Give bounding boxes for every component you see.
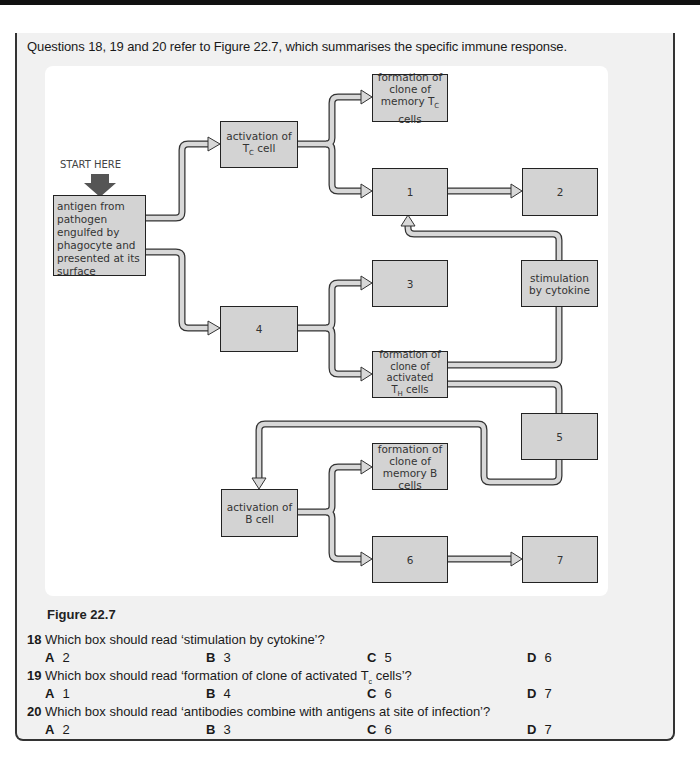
option-value: 1 <box>62 686 69 701</box>
option-letter: C <box>367 686 376 701</box>
option-value: 5 <box>384 650 391 665</box>
question-number: 20 <box>27 704 41 719</box>
th-line2: clone of activated <box>373 361 447 384</box>
option-letter: A <box>45 722 54 737</box>
box-activation-b: activation of B cell <box>221 489 298 537</box>
activation-tc-line1: activation of <box>226 130 291 142</box>
box-antigen: antigen from pathogen engulfed by phagoc… <box>53 195 146 276</box>
q18-option-b[interactable]: B3 <box>206 650 231 665</box>
q20-option-c[interactable]: C6 <box>367 722 392 737</box>
option-value: 2 <box>62 722 69 737</box>
q20-option-a[interactable]: A2 <box>45 722 70 737</box>
option-letter: B <box>206 686 215 701</box>
option-value: 6 <box>544 650 551 665</box>
q20-option-d[interactable]: D7 <box>527 722 552 737</box>
question-18: 18 Which box should read ‘stimulation by… <box>27 632 325 647</box>
memory-tc-line2: clone of <box>373 83 447 95</box>
box-5: 5 <box>521 413 598 460</box>
box-7: 7 <box>522 536 598 583</box>
memory-tc-rest: cells <box>398 113 422 125</box>
box-cytokine: stimulation by cytokine <box>521 260 598 307</box>
option-value: 3 <box>223 650 230 665</box>
option-value: 3 <box>223 722 230 737</box>
option-value: 2 <box>62 650 69 665</box>
question-number: 19 <box>27 668 41 683</box>
tc-rest: cell <box>254 142 275 154</box>
box-1: 1 <box>372 168 448 216</box>
memory-tc-line1: formation of <box>373 71 447 83</box>
th-line1: formation of <box>373 349 447 361</box>
q19-option-a[interactable]: A1 <box>45 686 70 701</box>
box-activation-tc: activation of TC cell <box>220 121 298 168</box>
question-text: Which box should read ‘stimulation by cy… <box>45 632 325 647</box>
th-rest: cells <box>403 384 429 395</box>
option-value: 4 <box>223 686 230 701</box>
question-text: Which box should read ‘formation of clon… <box>45 668 369 683</box>
start-arrow-icon <box>84 174 116 197</box>
box-6: 6 <box>372 536 448 583</box>
box-memory-b: formation of clone of memory B cells <box>372 443 448 490</box>
q19-option-b[interactable]: B4 <box>206 686 231 701</box>
q19-option-c[interactable]: C6 <box>367 686 392 701</box>
option-letter: A <box>45 650 54 665</box>
q19-option-d[interactable]: D7 <box>527 686 552 701</box>
q20-option-b[interactable]: B3 <box>206 722 231 737</box>
option-letter: C <box>367 650 376 665</box>
option-letter: D <box>527 650 536 665</box>
q18-option-d[interactable]: D6 <box>527 650 552 665</box>
option-value: 6 <box>384 686 391 701</box>
question-text: Which box should read ‘antibodies combin… <box>45 704 490 719</box>
option-letter: A <box>45 686 54 701</box>
option-letter: D <box>527 722 536 737</box>
memory-tc-subscript: C <box>434 103 439 111</box>
question-number: 18 <box>27 632 41 647</box>
box-2: 2 <box>522 168 598 216</box>
option-letter: B <box>206 650 215 665</box>
box-3: 3 <box>372 260 448 307</box>
option-letter: D <box>527 686 536 701</box>
question-19: 19 Which box should read ‘formation of c… <box>27 668 412 685</box>
option-value: 7 <box>544 722 551 737</box>
q18-option-c[interactable]: C5 <box>367 650 392 665</box>
option-letter: B <box>206 722 215 737</box>
q18-option-a[interactable]: A2 <box>45 650 70 665</box>
box-4: 4 <box>220 306 298 352</box>
box-memory-tc: formation of clone of memory TC cells <box>372 74 448 122</box>
figure-caption: Figure 22.7 <box>47 607 116 622</box>
memory-tc-line3: memory T <box>381 95 435 107</box>
question-20: 20 Which box should read ‘antibodies com… <box>27 704 490 719</box>
box-activated-th: formation of clone of activated TH cells <box>372 351 448 398</box>
option-value: 7 <box>544 686 551 701</box>
question-text-end: cells’? <box>372 668 412 683</box>
option-letter: C <box>367 722 376 737</box>
start-here-label: START HERE <box>60 159 121 170</box>
option-value: 6 <box>384 722 391 737</box>
